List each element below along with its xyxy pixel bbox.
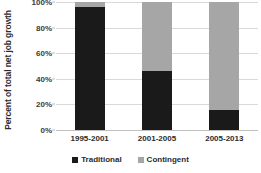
y-tick-label: 100% bbox=[16, 0, 52, 7]
y-tick-label: 60% bbox=[16, 49, 52, 58]
x-tick-label: 2001-2005 bbox=[138, 134, 176, 143]
plot-area bbox=[56, 2, 258, 130]
legend-swatch-icon bbox=[72, 157, 78, 163]
legend-swatch-icon bbox=[138, 157, 144, 163]
y-axis-tick-labels: 0%20%40%60%80%100% bbox=[16, 0, 52, 145]
y-tick-mark bbox=[52, 78, 55, 79]
y-tick-mark bbox=[52, 104, 55, 105]
y-tick-mark bbox=[52, 130, 55, 131]
y-tick-mark bbox=[52, 53, 55, 54]
x-tick-label: 1995-2001 bbox=[71, 134, 109, 143]
bar-group[interactable] bbox=[142, 2, 172, 130]
legend-entry[interactable]: Contingent bbox=[138, 155, 189, 164]
y-axis-title-text: Percent of total net job growth bbox=[3, 10, 13, 130]
chart-legend: TraditionalContingent bbox=[0, 155, 261, 164]
y-tick-label: 20% bbox=[16, 100, 52, 109]
x-axis-line bbox=[56, 130, 258, 131]
y-tick-mark bbox=[52, 27, 55, 28]
y-tick-label: 0% bbox=[16, 126, 52, 135]
x-axis-tick-labels: 1995-20012001-20052005-2013 bbox=[56, 134, 258, 148]
stacked-bar-chart: Percent of total net job growth 0%20%40%… bbox=[0, 0, 261, 173]
x-tick-label: 2005-2013 bbox=[205, 134, 243, 143]
bar-segment-traditional[interactable] bbox=[75, 7, 105, 130]
y-tick-mark bbox=[52, 2, 55, 3]
legend-entry[interactable]: Traditional bbox=[72, 155, 121, 164]
bar-group[interactable] bbox=[209, 2, 239, 130]
y-axis-title: Percent of total net job growth bbox=[0, 0, 16, 140]
legend-label: Contingent bbox=[147, 155, 189, 164]
bar-segment-contingent[interactable] bbox=[75, 2, 105, 7]
y-tick-label: 40% bbox=[16, 74, 52, 83]
bar-segment-traditional[interactable] bbox=[209, 110, 239, 130]
bar-segment-contingent[interactable] bbox=[142, 2, 172, 71]
y-tick-label: 80% bbox=[16, 23, 52, 32]
legend-label: Traditional bbox=[81, 155, 121, 164]
bar-group[interactable] bbox=[75, 2, 105, 130]
bar-segment-contingent[interactable] bbox=[209, 2, 239, 110]
bar-segment-traditional[interactable] bbox=[142, 71, 172, 130]
